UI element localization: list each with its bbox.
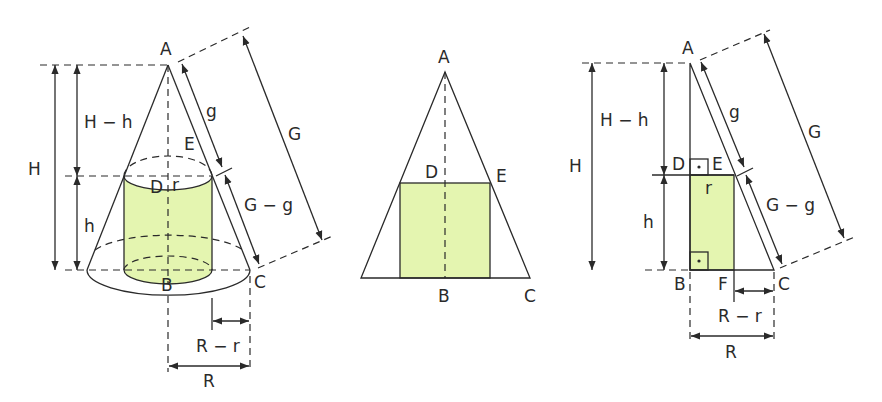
right-angle-dot-B	[697, 259, 700, 262]
right-angle-dot-D	[697, 165, 700, 168]
diagram-canvas: A D E B C r H H − h h g G G − g R − r R …	[0, 0, 882, 402]
point-F: F	[718, 274, 728, 294]
ext-base-slant	[780, 236, 857, 268]
cylinder-body	[124, 176, 212, 284]
label-G-minus-g: G − g	[244, 195, 293, 215]
point-A: A	[438, 47, 450, 67]
point-B: B	[161, 275, 173, 295]
point-D: D	[672, 154, 685, 174]
point-E: E	[184, 134, 195, 154]
label-H-minus-h: H − h	[84, 112, 133, 132]
label-G-minus-g: G − g	[766, 195, 815, 215]
point-C: C	[524, 286, 536, 306]
figure-right-half-section: A D E B F C r H H − h h g G G − g R − r …	[569, 30, 857, 362]
point-B: B	[674, 274, 686, 294]
tick-E	[737, 168, 753, 176]
label-H: H	[569, 156, 582, 176]
figure-middle-cross-section: A D E B C	[361, 47, 536, 306]
label-g: g	[206, 101, 217, 121]
point-D: D	[150, 177, 163, 197]
point-D: D	[425, 162, 438, 182]
dim-G-minus-g	[746, 175, 782, 264]
point-A: A	[682, 38, 694, 58]
label-R: R	[725, 342, 737, 362]
point-A: A	[160, 39, 172, 59]
label-h: h	[643, 212, 654, 232]
label-h: h	[84, 216, 95, 236]
point-E: E	[712, 154, 723, 174]
ext-base-slant	[258, 235, 335, 268]
label-r: r	[172, 175, 179, 195]
label-H: H	[28, 159, 41, 179]
point-E: E	[496, 166, 507, 186]
label-r: r	[705, 178, 712, 198]
half-rectangle-BDEF	[690, 175, 734, 270]
point-C: C	[778, 274, 790, 294]
point-C: C	[254, 272, 266, 292]
tick-E	[216, 168, 232, 176]
label-G: G	[288, 124, 301, 144]
label-G: G	[808, 122, 821, 142]
label-g: g	[729, 102, 740, 122]
ext-apex-slant	[178, 27, 250, 62]
label-R-minus-r: R − r	[196, 336, 240, 356]
point-B: B	[438, 286, 450, 306]
figure-left-cone-cylinder: A D E B C r H H − h h g G G − g R − r R	[28, 27, 335, 391]
label-R: R	[203, 371, 215, 391]
ext-apex-slant	[700, 30, 770, 60]
label-H-minus-h: H − h	[600, 110, 649, 130]
label-R-minus-r: R − r	[718, 306, 762, 326]
